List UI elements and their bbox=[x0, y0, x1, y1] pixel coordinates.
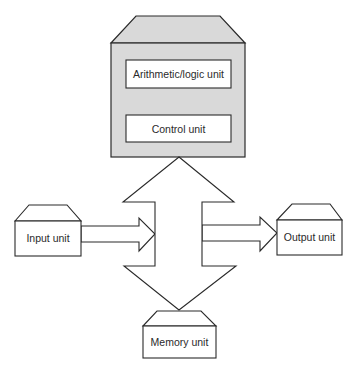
input-unit: Input unit bbox=[15, 205, 81, 256]
output-unit-bevel bbox=[277, 204, 342, 220]
input-unit-label: Input unit bbox=[26, 232, 69, 244]
cpu-block: Arithmetic/logic unit Control unit bbox=[111, 16, 245, 157]
output-unit: Output unit bbox=[277, 204, 342, 255]
memory-unit-label: Memory unit bbox=[151, 336, 209, 348]
control-unit-label: Control unit bbox=[152, 123, 206, 135]
input-arrow bbox=[81, 218, 155, 251]
alu-label: Arithmetic/logic unit bbox=[133, 68, 224, 80]
input-unit-bevel bbox=[15, 205, 81, 221]
memory-unit-bevel bbox=[143, 311, 216, 326]
output-unit-label: Output unit bbox=[284, 231, 335, 243]
cpu-top-bevel bbox=[111, 16, 245, 43]
output-arrow bbox=[202, 217, 277, 251]
computer-architecture-diagram: Arithmetic/logic unit Control unit Input… bbox=[0, 0, 357, 369]
memory-unit: Memory unit bbox=[143, 311, 216, 358]
